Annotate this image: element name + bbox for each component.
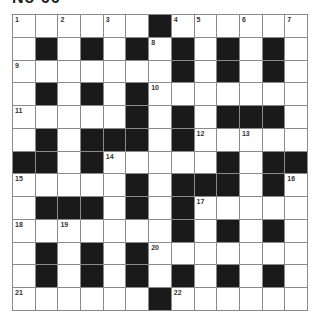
grid-cell[interactable] bbox=[217, 288, 239, 310]
grid-cell[interactable] bbox=[58, 174, 80, 196]
grid-cell[interactable]: 2 bbox=[58, 15, 80, 37]
grid-cell[interactable] bbox=[36, 106, 58, 128]
grid-cell[interactable] bbox=[81, 106, 103, 128]
grid-cell[interactable] bbox=[149, 220, 171, 242]
grid-cell[interactable] bbox=[240, 265, 262, 287]
grid-cell[interactable] bbox=[240, 83, 262, 105]
grid-cell[interactable] bbox=[263, 129, 285, 151]
grid-cell[interactable] bbox=[217, 197, 239, 219]
grid-cell[interactable] bbox=[58, 243, 80, 265]
grid-cell[interactable] bbox=[240, 220, 262, 242]
grid-cell[interactable]: 20 bbox=[149, 243, 171, 265]
grid-cell[interactable] bbox=[13, 83, 35, 105]
grid-cell[interactable] bbox=[58, 152, 80, 174]
grid-cell[interactable] bbox=[104, 265, 126, 287]
grid-cell[interactable] bbox=[195, 106, 217, 128]
grid-cell[interactable] bbox=[195, 220, 217, 242]
grid-cell[interactable]: 8 bbox=[149, 38, 171, 60]
grid-cell[interactable] bbox=[149, 106, 171, 128]
grid-cell[interactable] bbox=[195, 288, 217, 310]
grid-cell[interactable] bbox=[217, 129, 239, 151]
grid-cell[interactable] bbox=[149, 174, 171, 196]
grid-cell[interactable]: 14 bbox=[104, 152, 126, 174]
grid-cell[interactable]: 19 bbox=[58, 220, 80, 242]
grid-cell[interactable] bbox=[285, 61, 307, 83]
grid-cell[interactable] bbox=[104, 106, 126, 128]
grid-cell[interactable]: 9 bbox=[13, 61, 35, 83]
grid-cell[interactable] bbox=[126, 288, 148, 310]
grid-cell[interactable]: 21 bbox=[13, 288, 35, 310]
grid-cell[interactable] bbox=[13, 243, 35, 265]
grid-cell[interactable] bbox=[195, 243, 217, 265]
grid-cell[interactable]: 3 bbox=[104, 15, 126, 37]
grid-cell[interactable]: 6 bbox=[240, 15, 262, 37]
grid-cell[interactable] bbox=[263, 288, 285, 310]
grid-cell[interactable] bbox=[285, 288, 307, 310]
grid-cell[interactable] bbox=[285, 129, 307, 151]
grid-cell[interactable]: 10 bbox=[149, 83, 171, 105]
grid-cell[interactable] bbox=[104, 83, 126, 105]
grid-cell[interactable] bbox=[126, 152, 148, 174]
grid-cell[interactable]: 5 bbox=[195, 15, 217, 37]
grid-cell[interactable] bbox=[58, 106, 80, 128]
grid-cell[interactable] bbox=[149, 152, 171, 174]
grid-cell[interactable] bbox=[58, 129, 80, 151]
grid-cell[interactable] bbox=[58, 83, 80, 105]
grid-cell[interactable] bbox=[172, 152, 194, 174]
grid-cell[interactable] bbox=[195, 152, 217, 174]
grid-cell[interactable] bbox=[285, 38, 307, 60]
grid-cell[interactable] bbox=[195, 38, 217, 60]
grid-cell[interactable] bbox=[81, 174, 103, 196]
grid-cell[interactable] bbox=[104, 288, 126, 310]
grid-cell[interactable] bbox=[36, 288, 58, 310]
grid-cell[interactable] bbox=[195, 265, 217, 287]
grid-cell[interactable] bbox=[263, 83, 285, 105]
grid-cell[interactable] bbox=[36, 61, 58, 83]
grid-cell[interactable] bbox=[149, 265, 171, 287]
grid-cell[interactable] bbox=[285, 106, 307, 128]
grid-cell[interactable] bbox=[126, 220, 148, 242]
grid-cell[interactable] bbox=[240, 152, 262, 174]
grid-cell[interactable] bbox=[217, 83, 239, 105]
grid-cell[interactable] bbox=[36, 15, 58, 37]
grid-cell[interactable] bbox=[195, 83, 217, 105]
grid-cell[interactable]: 17 bbox=[195, 197, 217, 219]
grid-cell[interactable] bbox=[149, 61, 171, 83]
grid-cell[interactable] bbox=[263, 197, 285, 219]
grid-cell[interactable] bbox=[58, 61, 80, 83]
grid-cell[interactable] bbox=[81, 15, 103, 37]
grid-cell[interactable] bbox=[13, 38, 35, 60]
grid-cell[interactable] bbox=[104, 220, 126, 242]
grid-cell[interactable]: 13 bbox=[240, 129, 262, 151]
grid-cell[interactable] bbox=[81, 61, 103, 83]
grid-cell[interactable] bbox=[13, 197, 35, 219]
grid-cell[interactable] bbox=[36, 174, 58, 196]
grid-cell[interactable] bbox=[58, 288, 80, 310]
grid-cell[interactable] bbox=[36, 220, 58, 242]
grid-cell[interactable]: 4 bbox=[172, 15, 194, 37]
grid-cell[interactable] bbox=[172, 243, 194, 265]
grid-cell[interactable]: 22 bbox=[172, 288, 194, 310]
grid-cell[interactable] bbox=[104, 243, 126, 265]
grid-cell[interactable]: 16 bbox=[285, 174, 307, 196]
grid-cell[interactable] bbox=[285, 220, 307, 242]
grid-cell[interactable] bbox=[263, 15, 285, 37]
grid-cell[interactable] bbox=[104, 38, 126, 60]
grid-cell[interactable] bbox=[240, 174, 262, 196]
grid-cell[interactable] bbox=[217, 243, 239, 265]
grid-cell[interactable] bbox=[285, 265, 307, 287]
grid-cell[interactable] bbox=[81, 288, 103, 310]
grid-cell[interactable] bbox=[13, 265, 35, 287]
grid-cell[interactable] bbox=[81, 220, 103, 242]
grid-cell[interactable] bbox=[104, 61, 126, 83]
grid-cell[interactable] bbox=[285, 197, 307, 219]
grid-cell[interactable] bbox=[240, 61, 262, 83]
grid-cell[interactable] bbox=[263, 243, 285, 265]
grid-cell[interactable] bbox=[13, 129, 35, 151]
grid-cell[interactable] bbox=[172, 83, 194, 105]
grid-cell[interactable]: 1 bbox=[13, 15, 35, 37]
grid-cell[interactable] bbox=[240, 38, 262, 60]
grid-cell[interactable] bbox=[104, 197, 126, 219]
grid-cell[interactable] bbox=[285, 83, 307, 105]
grid-cell[interactable] bbox=[126, 15, 148, 37]
